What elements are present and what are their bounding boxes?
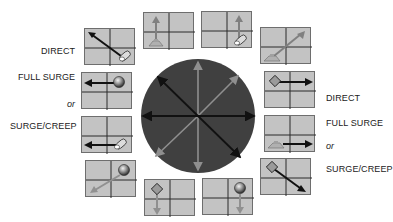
label-left-direct: DIRECT	[41, 46, 75, 56]
sphere-piece-icon	[114, 77, 125, 88]
sphere-piece-icon	[119, 165, 130, 176]
move-box-north-left	[143, 12, 194, 49]
label-right-or: or	[326, 141, 334, 151]
label-left-full-surge: FULL SURGE	[18, 72, 75, 82]
tank-piece-icon	[149, 39, 163, 46]
label-right-surge-creep: SURGE/CREEP	[326, 164, 393, 174]
move-box-northeast	[260, 27, 311, 64]
label-left-or: or	[67, 99, 75, 109]
move-box-southwest	[85, 160, 136, 197]
direction-wheel	[138, 56, 258, 176]
move-box-north-right	[201, 11, 252, 48]
diamond-piece-icon	[269, 75, 280, 86]
diamond-piece-icon	[151, 183, 162, 194]
label-right-full-surge: FULL SURGE	[326, 118, 383, 128]
move-box-northwest	[84, 28, 135, 65]
move-box-west-surge-creep	[81, 116, 132, 153]
label-right-direct: DIRECT	[326, 93, 360, 103]
move-box-east-direct	[264, 71, 315, 108]
move-box-south-left	[144, 179, 195, 216]
tank-piece-icon	[264, 54, 280, 61]
move-box-southeast	[260, 158, 311, 195]
move-box-west-full-surge	[81, 72, 132, 109]
label-left-surge-creep: SURGE/CREEP	[10, 121, 77, 131]
sphere-piece-icon	[235, 183, 246, 194]
pill-piece-icon	[118, 50, 131, 62]
tank-piece-icon	[268, 141, 284, 148]
pill-piece-icon	[114, 138, 127, 150]
move-box-east-full-surge	[264, 115, 315, 152]
move-box-south-right	[202, 178, 253, 215]
pill-piece-icon	[234, 34, 247, 46]
